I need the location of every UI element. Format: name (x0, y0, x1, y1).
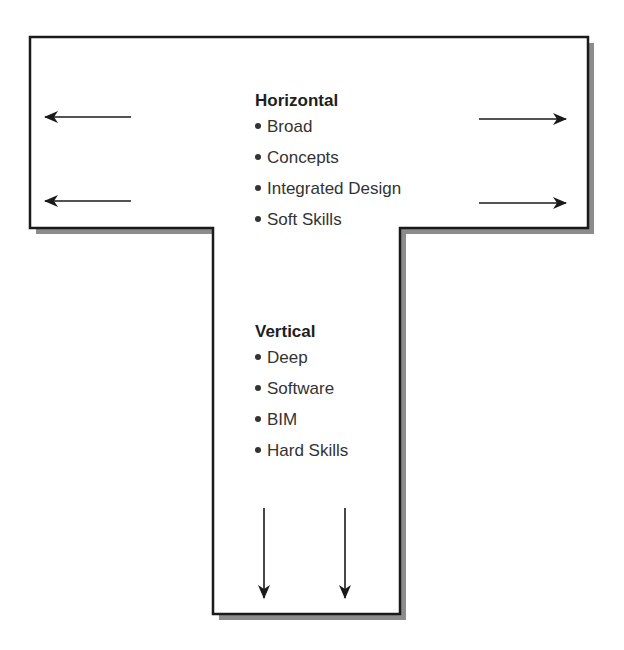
bullet-icon (255, 185, 261, 191)
horizontal-skills-block: Horizontal Broad Concepts Integrated Des… (255, 91, 401, 241)
bullet-icon (255, 385, 261, 391)
list-item: Soft Skills (255, 210, 401, 230)
list-item: Software (255, 379, 348, 399)
vertical-skills-block: Vertical Deep Software BIM Hard Skills (255, 322, 348, 472)
bullet-icon (255, 123, 261, 129)
list-item: BIM (255, 410, 348, 430)
list-item: Hard Skills (255, 441, 348, 461)
bullet-icon (255, 416, 261, 422)
list-item: Deep (255, 348, 348, 368)
list-item: Integrated Design (255, 179, 401, 199)
vertical-heading: Vertical (255, 322, 348, 342)
bullet-icon (255, 447, 261, 453)
list-item: Broad (255, 117, 401, 137)
bullet-icon (255, 354, 261, 360)
bullet-icon (255, 154, 261, 160)
list-item: Concepts (255, 148, 401, 168)
bullet-icon (255, 216, 261, 222)
horizontal-heading: Horizontal (255, 91, 401, 111)
